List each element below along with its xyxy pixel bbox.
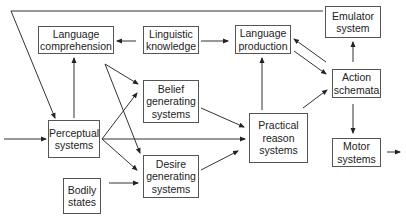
node-motor-systems: Motor systems [332,138,381,167]
node-desire-generating-systems: Desire generating systems [143,155,199,198]
node-bodily-states: Bodily states [63,178,101,214]
arrow-action-schemata-to-language-production [294,39,326,62]
node-linguistic-knowledge: Linguistic knowledge [143,26,199,54]
arrow-perceptual-systems-to-desire-generating-systems [102,139,137,170]
node-perceptual-systems: Perceptual systems [48,120,100,158]
node-language-production: Language production [235,25,291,54]
cognitive-architecture-diagram: Language comprehensionLinguistic knowled… [0,0,406,219]
node-practical-reason-systems: Practical reason systems [249,113,308,163]
node-emulator-system: Emulator system [325,6,381,38]
arrow-belief-generating-systems-to-practical-reason-systems [201,108,244,127]
arrow-language-comprehension-to-desire-generating-systems [105,64,140,153]
arrow-language-comprehension-to-belief-generating-systems [105,64,138,84]
arrow-desire-generating-systems-to-practical-reason-systems [201,151,238,170]
node-action-schemata: Action schemata [332,69,381,98]
arrow-practical-reason-systems-to-action-schemata [303,90,327,108]
node-belief-generating-systems: Belief generating systems [143,80,199,123]
arrow-language-production-to-action-schemata [294,51,326,74]
node-language-comprehension: Language comprehension [38,26,114,54]
